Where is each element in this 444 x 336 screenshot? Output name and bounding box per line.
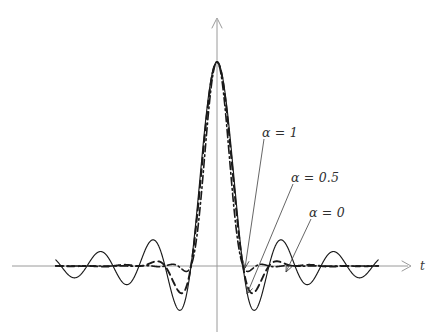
x-axis-label: t bbox=[420, 259, 425, 273]
leader-line-alpha-1 bbox=[245, 139, 264, 268]
annotation-label-alpha-0: α = 0 bbox=[309, 205, 345, 220]
annotation-label-alpha-1: α = 1 bbox=[262, 125, 298, 140]
annotation-text-alpha-0: α = 0 bbox=[309, 205, 345, 220]
leader-line-alpha-0-5 bbox=[247, 184, 293, 294]
raised-cosine-impulse-response-figure: α = 1 α = 0.5 α = 0 t bbox=[0, 0, 444, 336]
axes-group bbox=[12, 18, 411, 332]
annotation-label-alpha-0-5: α = 0.5 bbox=[291, 170, 339, 185]
annotation-text-alpha-1: α = 1 bbox=[262, 125, 298, 140]
annotation-text-alpha-0-5: α = 0.5 bbox=[291, 170, 339, 185]
annotation-leaders-group bbox=[243, 139, 311, 294]
chart-canvas bbox=[0, 0, 444, 336]
